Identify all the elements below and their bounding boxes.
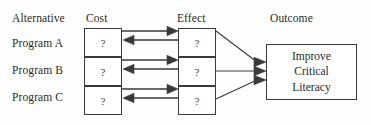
effect-box-program-c[interactable]: ? <box>178 86 216 115</box>
cost-box-program-a[interactable]: ? <box>84 28 122 57</box>
arrow-cost-to-effect-b <box>122 55 178 64</box>
column-header-cost: Cost <box>86 12 108 24</box>
cost-box-program-b[interactable]: ? <box>84 57 122 86</box>
row-label-program-c: Program C <box>12 91 63 103</box>
arrow-effect-c-to-outcome <box>216 75 266 99</box>
arrow-effect-b-to-outcome <box>216 66 266 76</box>
outcome-line-2: Critical <box>294 64 329 79</box>
arrow-effect-to-cost-c <box>123 93 178 102</box>
outcome-line-1: Improve <box>292 49 331 64</box>
cost-box-program-c[interactable]: ? <box>84 86 122 115</box>
arrow-effect-a-to-outcome <box>216 31 266 67</box>
arrow-cost-to-effect-c <box>122 84 178 93</box>
effect-box-program-a[interactable]: ? <box>178 28 216 57</box>
column-header-effect: Effect <box>177 12 205 24</box>
outcome-box[interactable]: Improve Critical Literacy <box>266 44 357 100</box>
column-header-outcome: Outcome <box>270 12 313 24</box>
effect-box-program-b[interactable]: ? <box>178 57 216 86</box>
row-label-program-a: Program A <box>12 37 63 49</box>
outcome-line-3: Literacy <box>292 80 330 95</box>
arrow-effect-to-cost-b <box>123 64 178 73</box>
row-label-program-b: Program B <box>12 64 63 76</box>
diagram-canvas: Alternative Cost Effect Outcome Program … <box>0 0 371 125</box>
column-header-alternative: Alternative <box>12 12 65 24</box>
arrow-effect-to-cost-a <box>123 35 178 44</box>
arrow-cost-to-effect-a <box>122 26 178 35</box>
